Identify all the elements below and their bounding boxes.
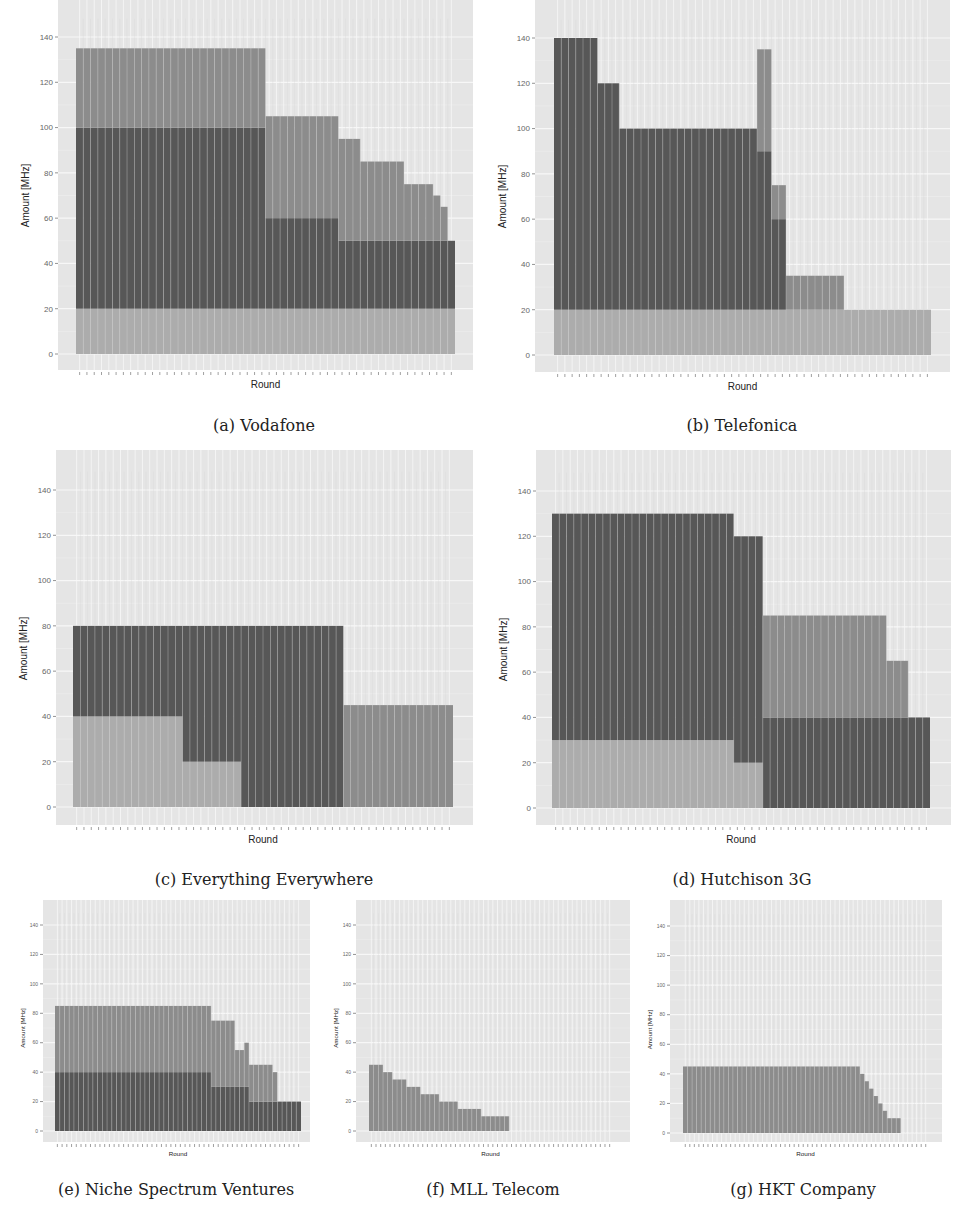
bar-segment-medium [375,162,382,241]
bar-segment-dark [440,241,447,309]
bar-segment-light [690,740,697,808]
y-tick-label: 80 [522,623,531,632]
bar-segment-light [212,762,219,807]
bar-segment-dark [843,717,850,808]
bar-segment-dark [154,1072,159,1131]
bar-segment-light [581,740,588,808]
bar-segment-medium [706,1066,711,1133]
bar-segment-dark [230,1087,235,1131]
bar-segment-dark [225,1087,230,1131]
bar-segment-medium [433,196,440,241]
bar-segment-medium [351,705,358,807]
bar-segment-light [721,310,728,355]
bar-segment-dark [64,1072,69,1131]
bar-segment-medium [74,1006,79,1072]
bar-segment-dark [98,128,105,309]
bar-segment-medium [430,1094,435,1131]
bar-segment-light [124,716,131,807]
y-axis-title: Amount [MHz] [646,1009,653,1049]
bar-segment-dark [150,1072,155,1131]
bar-segment-medium [411,184,418,241]
bar-segment-dark [192,1072,197,1131]
bar-segment-medium [462,1109,467,1131]
bar-segment-dark [88,626,95,717]
bar-segment-dark [734,536,741,762]
bar-segment-medium [258,48,265,127]
bar-segment-medium [135,1006,140,1072]
bar-segment-dark [915,717,922,808]
bar-segment-medium [453,1102,458,1131]
bar-segment-dark [149,128,156,309]
bar-segment-dark [190,626,197,762]
bar-segment-dark [634,129,641,310]
bar-segment-dark [596,514,603,740]
bar-segment-light [368,309,375,354]
bar-segment-medium [796,1066,801,1133]
bar-segment-dark [126,1072,131,1131]
bar-segment-dark [879,717,886,808]
bar-segment-medium [872,616,879,718]
bar-segment-dark [258,1102,263,1131]
bar-segment-dark [872,717,879,808]
bar-segment-light [190,762,197,807]
bar-segment-dark [248,626,255,807]
bar-segment-medium [360,162,367,241]
bar-segment-light [251,309,258,354]
bar-segment-medium [772,185,779,219]
bar-segment-medium [98,48,105,127]
bar-segment-light [719,740,726,808]
bar-segment-medium [774,1066,779,1133]
bar-segment-medium [164,1006,169,1072]
bar-segment-light [617,740,624,808]
bar-segment-light [207,309,214,354]
bar-segment-medium [240,1050,245,1087]
chart-c: 020406080100120140RoundAmount [MHz] [18,450,473,845]
bar-segment-dark [779,219,786,310]
bar-segment-dark [719,514,726,740]
bar-segment-dark [336,626,343,807]
bar-segment-light [95,716,102,807]
bar-segment-light [815,310,822,355]
bar-segment-medium [821,616,828,718]
bar-segment-dark [76,128,83,309]
bar-segment-medium [98,1006,103,1072]
bar-segment-dark [244,1087,249,1131]
bar-segment-dark [554,38,561,310]
bar-segment-dark [419,241,426,309]
bar-segment-medium [409,705,416,807]
bar-segment-medium [892,1118,897,1133]
bar-segment-medium [857,616,864,718]
bar-segment-light [808,310,815,355]
y-tick-label: 100 [518,577,532,586]
bar-segment-light [677,310,684,355]
bar-segment-light [588,740,595,808]
y-tick-label: 40 [345,1069,351,1075]
bar-segment-light [426,309,433,354]
bar-segment-dark [792,717,799,808]
bar-segment-medium [887,1118,892,1133]
bar-segment-light [280,309,287,354]
bar-segment-medium [783,1066,788,1133]
bar-segment-medium [828,616,835,718]
bar-segment-light [102,716,109,807]
bar-segment-dark [576,38,583,310]
bar-segment-dark [617,514,624,740]
y-tick-label: 120 [657,952,666,958]
bar-segment-medium [837,276,844,310]
x-axis-title: Round [726,834,755,845]
bar-segment-medium [793,276,800,310]
bar-segment-light [705,740,712,808]
bar-segment-medium [221,1021,226,1087]
bar-segment-medium [83,1006,88,1072]
bar-segment-dark [375,241,382,309]
bar-segment-light [258,309,265,354]
bar-segment-light [676,740,683,808]
bar-segment-medium [156,48,163,127]
bar-segment-dark [287,218,294,309]
bar-segment-dark [404,241,411,309]
bar-segment-medium [836,616,843,718]
bar-segment-dark [353,241,360,309]
bar-segment-medium [806,1066,811,1133]
bar-segment-medium [896,1118,901,1133]
bar-segment-dark [107,1072,112,1131]
